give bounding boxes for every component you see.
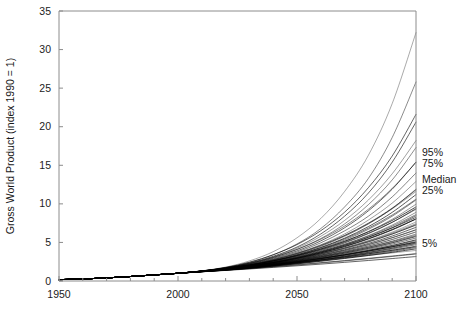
gross-world-product-line-chart: 051015202530351950200020502100 95%75%Med… xyxy=(0,0,470,317)
percentile-label: 25% xyxy=(422,184,443,196)
y-tick-label: 20 xyxy=(39,120,51,132)
y-tick-label: 15 xyxy=(39,159,51,171)
x-tick-label: 2000 xyxy=(166,288,190,300)
y-tick-label: 25 xyxy=(39,82,51,94)
y-tick-label: 10 xyxy=(39,197,51,209)
x-tick-label: 2100 xyxy=(404,288,428,300)
chart-figure: 051015202530351950200020502100 95%75%Med… xyxy=(0,0,470,317)
x-tick-label: 2050 xyxy=(285,288,309,300)
y-tick-label: 5 xyxy=(45,236,51,248)
y-tick-label: 30 xyxy=(39,43,51,55)
x-tick-label: 1950 xyxy=(47,288,71,300)
y-axis-title: Gross World Product (index 1990 = 1) xyxy=(4,58,16,234)
y-tick-label: 0 xyxy=(45,275,51,287)
y-tick-label: 35 xyxy=(39,5,51,17)
percentile-label: 5% xyxy=(422,237,437,249)
percentile-label: 75% xyxy=(422,157,443,169)
